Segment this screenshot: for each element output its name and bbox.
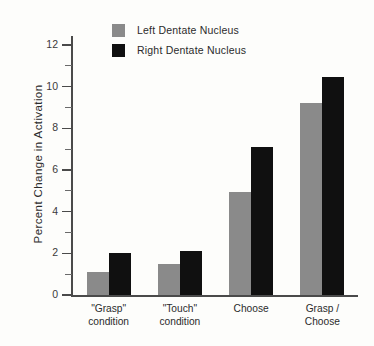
bar [87,272,109,295]
y-tick-label: 4 [30,205,58,217]
x-axis-category-label: "Grasp" condition [73,303,144,328]
y-tick-label: 0 [30,288,58,300]
y-tick-minor [65,232,72,233]
x-axis-line [71,295,358,297]
y-tick-minor [65,190,72,191]
bar [322,77,344,295]
x-axis-category-label: Grasp / Choose [287,303,358,328]
y-tick-major [62,86,72,87]
bar [300,103,322,295]
bar [180,251,202,295]
y-tick-major [62,44,72,45]
x-axis-category-label: "Touch" condition [144,303,215,328]
y-tick-label: 10 [30,80,58,92]
y-tick-major [62,169,72,170]
legend-item-label: Left Dentate Nucleus [137,24,239,36]
y-tick-major [62,128,72,129]
y-tick-minor [65,65,72,66]
y-tick-major [62,253,72,254]
bar [109,253,131,295]
legend: Left Dentate Nucleus Right Dentate Nucle… [112,20,246,60]
legend-item: Right Dentate Nucleus [112,40,246,60]
y-tick-label: 8 [30,121,58,133]
legend-item-label: Right Dentate Nucleus [137,44,246,56]
y-tick-minor [65,107,72,108]
x-axis-category-label: Choose [216,303,287,316]
legend-item: Left Dentate Nucleus [112,20,246,40]
y-tick-label: 6 [30,163,58,175]
left-swatch-icon [112,24,125,37]
bar [251,147,273,295]
bar [158,264,180,295]
y-axis-line [71,36,73,296]
y-tick-major [62,211,72,212]
right-swatch-icon [112,44,125,57]
bar-chart-figure: Percent Change in Activation 024681012 "… [0,0,374,346]
y-tick-label: 2 [30,246,58,258]
y-tick-major [62,294,72,295]
y-tick-label: 12 [30,38,58,50]
bar [229,192,251,295]
y-tick-minor [65,149,72,150]
y-tick-minor [65,274,72,275]
